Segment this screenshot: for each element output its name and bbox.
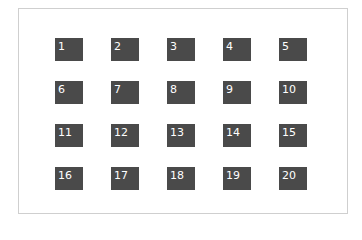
grid-cell-16[interactable]: 16 — [55, 167, 83, 190]
grid-cell-17[interactable]: 17 — [111, 167, 139, 190]
grid-cell-11[interactable]: 11 — [55, 124, 83, 147]
grid-cell-20[interactable]: 20 — [279, 167, 307, 190]
grid-cell-3[interactable]: 3 — [167, 38, 195, 61]
grid-cell-15[interactable]: 15 — [279, 124, 307, 147]
grid-cell-4[interactable]: 4 — [223, 38, 251, 61]
grid-cell-8[interactable]: 8 — [167, 81, 195, 104]
grid-cell-2[interactable]: 2 — [111, 38, 139, 61]
grid-cell-10[interactable]: 10 — [279, 81, 307, 104]
grid-cell-18[interactable]: 18 — [167, 167, 195, 190]
grid-cell-19[interactable]: 19 — [223, 167, 251, 190]
grid-cell-14[interactable]: 14 — [223, 124, 251, 147]
grid-cell-5[interactable]: 5 — [279, 38, 307, 61]
grid-cell-1[interactable]: 1 — [55, 38, 83, 61]
grid-cell-12[interactable]: 12 — [111, 124, 139, 147]
grid-cell-6[interactable]: 6 — [55, 81, 83, 104]
grid-cell-13[interactable]: 13 — [167, 124, 195, 147]
grid-cell-7[interactable]: 7 — [111, 81, 139, 104]
grid-cell-9[interactable]: 9 — [223, 81, 251, 104]
